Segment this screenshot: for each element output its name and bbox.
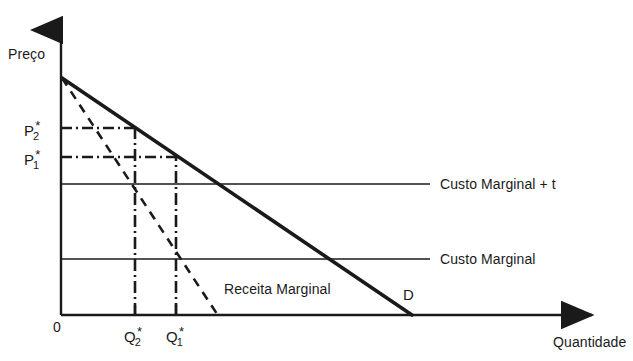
price-tick-label-2: P2* — [24, 118, 40, 142]
marginal-revenue-curve — [62, 78, 219, 317]
quantity-tick-label-1: Q1* — [166, 324, 184, 348]
demand-curve-label: D — [403, 286, 414, 303]
x-axis-label: Quantidade — [553, 334, 626, 350]
origin-label: 0 — [53, 319, 61, 335]
price-tick-1-star: * — [35, 147, 40, 162]
marginal-cost-plus-tax-label: Custo Marginal + t — [440, 176, 556, 192]
y-axis-label: Preço — [8, 46, 45, 62]
marginal-revenue-label: Receita Marginal — [224, 281, 331, 297]
demand-curve — [62, 78, 412, 315]
quantity-tick-2-base: Q — [124, 328, 136, 345]
quantity-tick-1-star: * — [179, 324, 184, 339]
marginal-cost-label: Custo Marginal — [440, 251, 536, 267]
quantity-tick-2-star: * — [137, 324, 142, 339]
economics-diagram-figure: Preço Quantidade 0 P2* P1* Q2* Q1* Custo… — [0, 0, 633, 361]
price-tick-label-1: P1* — [24, 147, 40, 171]
quantity-tick-1-base: Q — [166, 328, 178, 345]
quantity-tick-label-2: Q2* — [124, 324, 142, 348]
price-tick-2-star: * — [35, 118, 40, 133]
